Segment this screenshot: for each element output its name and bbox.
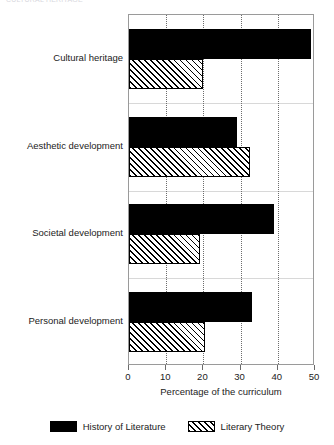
x-tick-40: [277, 365, 278, 370]
bar: [129, 147, 250, 177]
x-tick-label: 0: [113, 371, 143, 382]
legend-label: Literary Theory: [221, 421, 285, 432]
x-tick-10: [165, 365, 166, 370]
category-label: Personal development: [4, 315, 123, 326]
x-tick-label: 10: [150, 371, 180, 382]
bar-chart-figure: Cultural heritageAesthetic developmentSo…: [0, 0, 334, 445]
category-separator: [129, 103, 313, 104]
bar: [129, 59, 203, 89]
x-tick-30: [240, 365, 241, 370]
x-tick-50: [314, 365, 315, 370]
category-label: Cultural heritage: [4, 52, 123, 63]
bar: [129, 117, 237, 147]
legend: History of LiteratureLiterary Theory: [0, 421, 334, 432]
x-tick-20: [202, 365, 203, 370]
plot-area: [128, 14, 314, 365]
x-tick-label: 20: [187, 371, 217, 382]
category-label: Aesthetic development: [4, 140, 123, 151]
x-axis-title: Percentage of the curriculum: [128, 386, 314, 397]
gridline-40: [278, 15, 279, 364]
legend-label: History of Literature: [83, 421, 166, 432]
x-tick-0: [128, 365, 129, 370]
category-separator: [129, 278, 313, 279]
bar: [129, 204, 274, 234]
bar: [129, 234, 200, 264]
bar: [129, 292, 252, 322]
legend-item: Literary Theory: [188, 421, 285, 432]
x-tick-label: 40: [262, 371, 292, 382]
bar: [129, 29, 311, 59]
x-tick-label: 50: [299, 371, 329, 382]
category-label: Societal development: [4, 227, 123, 238]
x-tick-label: 30: [225, 371, 255, 382]
legend-swatch-hatch: [188, 421, 215, 432]
legend-swatch-solid: [50, 421, 77, 432]
bar: [129, 322, 205, 352]
legend-item: History of Literature: [50, 421, 166, 432]
category-separator: [129, 191, 313, 192]
